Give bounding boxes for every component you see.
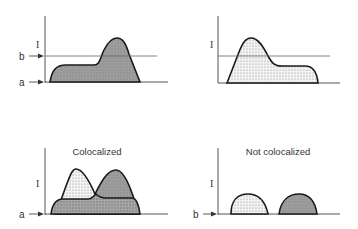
arrow-right-icon [29,212,44,217]
intensity-label: I [210,39,213,50]
intensity-label: I [210,178,213,189]
panel-colocalized: Colocalized I a [19,146,168,220]
marker-a-label: a [19,77,25,88]
colocalization-diagram: I b a I Colocalized I a [0,0,358,229]
dotted-hump [231,194,268,214]
arrow-right-icon [29,54,44,59]
panel-top-left: I b a [19,16,168,88]
intensity-label: I [36,178,39,189]
panel-top-right: I [210,16,340,83]
arrow-right-icon [29,80,44,85]
marker-b-label: b [193,209,199,220]
gray-curve [50,38,140,82]
arrow-right-icon [203,212,217,217]
panel-title: Not colocalized [246,146,310,157]
panel-title: Colocalized [72,146,121,157]
marker-a-label: a [19,209,25,220]
panel-not-colocalized: Not colocalized I b [193,146,340,220]
intensity-label: I [36,39,39,50]
dotted-curve [227,38,318,83]
marker-b-label: b [19,51,25,62]
gray-hump [279,194,317,214]
